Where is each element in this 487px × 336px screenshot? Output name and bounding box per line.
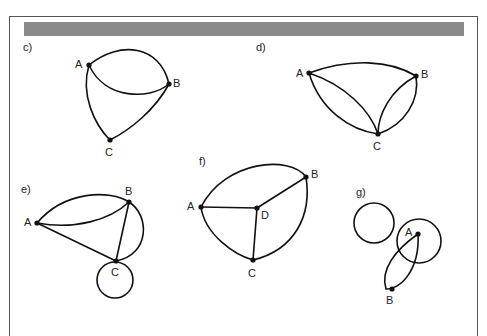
node-a: [198, 204, 203, 209]
node-label-d: D: [261, 209, 269, 221]
node-label-a: A: [296, 67, 304, 79]
edge-ab: [201, 164, 306, 207]
edge-bc-inner: [378, 76, 416, 134]
edge-ac-inner: [309, 73, 378, 134]
node-c: [113, 258, 118, 263]
panel-g: g) A B: [354, 186, 441, 306]
node-label-b: B: [311, 168, 318, 180]
panel-label-c: c): [23, 41, 32, 53]
node-label-a: A: [24, 216, 32, 228]
node-b: [126, 199, 131, 204]
node-label-a: A: [187, 200, 195, 212]
node-label-c: C: [248, 267, 256, 279]
node-label-b: B: [386, 294, 393, 306]
node-label-c: C: [105, 146, 113, 158]
edge-ac-outer: [309, 73, 378, 134]
node-c: [250, 257, 255, 262]
node-b: [389, 286, 394, 291]
panel-e: e) A B C: [21, 183, 143, 298]
edge-ab-lower: [37, 202, 129, 225]
loop-a-right: [397, 219, 441, 263]
panel-d: d) A B C: [256, 41, 428, 152]
node-label-a: A: [405, 226, 413, 238]
panel-label-f: f): [199, 155, 206, 167]
edge-bc-outer: [378, 76, 417, 134]
panel-label-e: e): [21, 183, 31, 195]
edge-ac: [201, 207, 253, 260]
edge-ad: [201, 207, 257, 208]
node-b: [303, 174, 308, 179]
node-label-c: C: [373, 140, 381, 152]
node-label-b: B: [421, 68, 428, 80]
node-a: [306, 70, 311, 75]
edge-ab-lower: [89, 65, 169, 94]
panel-f: f) A B C D: [187, 155, 318, 279]
node-label-b: B: [125, 185, 132, 197]
edge-cd: [253, 208, 257, 260]
node-d: [254, 205, 259, 210]
node-a: [415, 231, 420, 236]
edge-bd: [257, 177, 306, 208]
edge-bc: [110, 84, 169, 140]
node-c: [107, 137, 112, 142]
edge-ac: [86, 65, 110, 140]
edge-ab-upper: [89, 50, 169, 84]
edge-ab-upper: [37, 195, 129, 223]
panel-label-g: g): [356, 186, 366, 198]
edge-ab: [309, 63, 416, 76]
edge-ac: [37, 223, 116, 261]
node-a: [34, 220, 39, 225]
loop-a-left: [354, 203, 394, 243]
node-b: [413, 73, 418, 78]
edge-bc-curved: [116, 202, 143, 261]
node-label-a: A: [75, 58, 83, 70]
node-c: [375, 131, 380, 136]
panel-c: c) A B C: [23, 41, 180, 158]
node-b: [166, 81, 171, 86]
panel-label-d: d): [256, 41, 266, 53]
node-a: [86, 62, 91, 67]
node-label-b: B: [173, 77, 180, 89]
node-label-c: C: [111, 266, 119, 278]
